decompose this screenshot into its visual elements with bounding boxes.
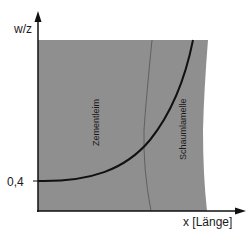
x-axis-arrow-icon xyxy=(235,208,246,215)
diagram-canvas: w/z 0,4 x [Länge] Zementleim Schaumlamel… xyxy=(0,0,250,232)
y-tick-label: 0,4 xyxy=(7,175,24,189)
region-label-schaumlamelle: Schaumlamelle xyxy=(178,98,188,160)
x-axis-label: x [Länge] xyxy=(183,215,232,229)
region-label-zementleim: Zementleim xyxy=(91,99,101,146)
y-axis-label: w/z xyxy=(13,22,32,36)
y-axis-arrow-icon xyxy=(35,11,42,22)
